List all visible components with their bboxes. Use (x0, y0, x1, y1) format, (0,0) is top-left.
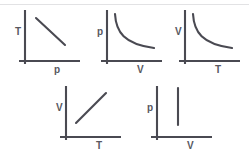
graph-3-plot (174, 8, 246, 78)
graph-1-T-vs-p: T p (14, 8, 86, 78)
graph-4-V-vs-T: V T (55, 84, 127, 154)
graph-3-x-axis-label: T (215, 65, 221, 75)
graph-3-V-vs-T: V T (174, 8, 246, 78)
graph-5-p-vs-V: p V (146, 84, 218, 154)
top-divider (0, 4, 249, 5)
graph-4-x-axis-label: T (96, 141, 102, 151)
graph-4-plot (55, 84, 127, 154)
graph-1-plot (14, 8, 86, 78)
graph-5-plot (146, 84, 218, 154)
graph-3-y-axis-label: V (175, 27, 182, 37)
graph-4-y-axis-label: V (56, 103, 63, 113)
graph-5-x-axis-label: V (187, 141, 194, 151)
graph-2-data-curve (115, 14, 154, 48)
graph-1-y-axis-label: T (15, 27, 21, 37)
graph-1-data-line (36, 18, 65, 45)
figure-sheet: T p p V V T V T (0, 0, 249, 158)
graph-2-p-vs-V: p V (96, 8, 168, 78)
graph-2-x-axis-label: V (137, 65, 144, 75)
graph-2-y-axis-label: p (97, 27, 103, 37)
graph-3-data-curve (193, 14, 232, 48)
graph-2-plot (96, 8, 168, 78)
graph-4-data-line (76, 93, 106, 123)
graph-5-y-axis-label: p (147, 103, 153, 113)
graph-1-x-axis-label: p (54, 65, 60, 75)
